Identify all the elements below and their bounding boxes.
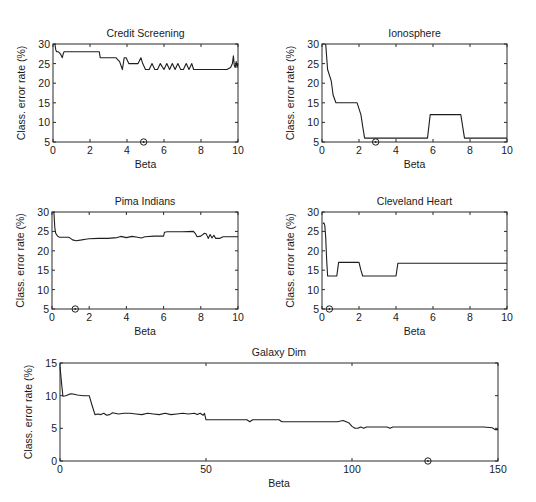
y-tick-label: 0 bbox=[51, 455, 57, 467]
y-tick-label: 30 bbox=[307, 38, 319, 50]
x-tick-label: 6 bbox=[161, 311, 167, 323]
y-tick-label: 15 bbox=[45, 357, 57, 369]
chart-pima-indians: Pima Indians Beta Class. error rate (%) … bbox=[14, 195, 244, 337]
axis-ticks: 050100150051015 bbox=[45, 357, 507, 475]
x-tick-label: 10 bbox=[232, 311, 244, 323]
y-tick-label: 5 bbox=[51, 422, 57, 434]
plot-area bbox=[322, 212, 507, 309]
plot-area bbox=[53, 44, 238, 142]
chart-credit-screening: Credit Screening Beta Class. error rate … bbox=[15, 27, 244, 170]
x-tick-label: 2 bbox=[356, 311, 362, 323]
x-tick-label: 0 bbox=[319, 311, 325, 323]
plot-area bbox=[52, 212, 238, 309]
x-tick-label: 8 bbox=[467, 144, 473, 156]
x-axis-label: Beta bbox=[404, 325, 426, 337]
error-rate-line bbox=[54, 212, 238, 241]
y-tick-label: 20 bbox=[307, 77, 319, 89]
plot-area bbox=[322, 44, 507, 142]
error-rate-line bbox=[60, 366, 498, 429]
y-tick-label: 15 bbox=[307, 264, 319, 276]
y-tick-label: 30 bbox=[307, 206, 319, 218]
x-tick-label: 8 bbox=[198, 144, 204, 156]
chart-ionosphere: Ionosphere Beta Class. error rate (%) 02… bbox=[284, 27, 513, 170]
x-tick-label: 8 bbox=[198, 311, 204, 323]
y-axis-label: Class. error rate (%) bbox=[22, 365, 34, 460]
y-tick-label: 10 bbox=[307, 116, 319, 128]
x-tick-label: 8 bbox=[467, 311, 473, 323]
y-tick-label: 5 bbox=[43, 303, 49, 315]
y-tick-label: 5 bbox=[313, 136, 319, 148]
x-tick-label: 4 bbox=[393, 311, 399, 323]
x-axis-label: Beta bbox=[268, 477, 290, 489]
x-tick-label: 4 bbox=[123, 311, 129, 323]
y-tick-label: 20 bbox=[307, 245, 319, 257]
x-tick-label: 6 bbox=[430, 311, 436, 323]
error-rate-line bbox=[326, 44, 507, 138]
chart-title: Credit Screening bbox=[106, 27, 184, 39]
y-tick-label: 20 bbox=[38, 77, 50, 89]
x-tick-label: 100 bbox=[343, 463, 361, 475]
y-tick-label: 25 bbox=[307, 58, 319, 70]
chart-cleveland-heart: Cleveland Heart Beta Class. error rate (… bbox=[284, 195, 513, 337]
y-tick-label: 10 bbox=[307, 284, 319, 296]
y-tick-label: 15 bbox=[38, 97, 50, 109]
x-tick-label: 2 bbox=[86, 311, 92, 323]
chart-title: Cleveland Heart bbox=[377, 195, 452, 207]
y-tick-label: 25 bbox=[38, 58, 50, 70]
chart-title: Ionosphere bbox=[388, 27, 441, 39]
axis-ticks: 024681051015202530 bbox=[38, 38, 244, 156]
error-rate-line bbox=[323, 223, 507, 276]
y-tick-label: 25 bbox=[37, 225, 49, 237]
chart-galaxy-dim: Galaxy Dim Beta Class. error rate (%) 05… bbox=[22, 346, 507, 489]
x-axis-label: Beta bbox=[404, 158, 426, 170]
y-tick-label: 10 bbox=[37, 284, 49, 296]
x-tick-label: 150 bbox=[489, 463, 507, 475]
x-axis-label: Beta bbox=[134, 325, 156, 337]
y-axis-label: Class. error rate (%) bbox=[14, 213, 26, 308]
error-rate-line bbox=[55, 44, 238, 70]
x-tick-label: 10 bbox=[232, 144, 244, 156]
y-tick-label: 20 bbox=[37, 245, 49, 257]
x-tick-label: 50 bbox=[200, 463, 212, 475]
x-tick-label: 0 bbox=[319, 144, 325, 156]
x-tick-label: 4 bbox=[393, 144, 399, 156]
chart-title: Pima Indians bbox=[115, 195, 176, 207]
x-tick-label: 2 bbox=[87, 144, 93, 156]
y-axis-label: Class. error rate (%) bbox=[284, 213, 296, 308]
chart-title: Galaxy Dim bbox=[252, 346, 307, 358]
y-tick-label: 30 bbox=[37, 206, 49, 218]
y-axis-label: Class. error rate (%) bbox=[15, 46, 27, 141]
y-tick-label: 30 bbox=[38, 38, 50, 50]
x-tick-label: 2 bbox=[356, 144, 362, 156]
y-tick-label: 10 bbox=[45, 390, 57, 402]
y-tick-label: 25 bbox=[307, 225, 319, 237]
y-tick-label: 5 bbox=[313, 303, 319, 315]
x-tick-label: 0 bbox=[50, 144, 56, 156]
x-tick-label: 0 bbox=[57, 463, 63, 475]
x-tick-label: 10 bbox=[501, 311, 513, 323]
x-tick-label: 6 bbox=[430, 144, 436, 156]
x-tick-label: 0 bbox=[49, 311, 55, 323]
x-tick-label: 6 bbox=[161, 144, 167, 156]
y-axis-label: Class. error rate (%) bbox=[284, 46, 296, 141]
x-tick-label: 10 bbox=[501, 144, 513, 156]
figure-canvas: Credit Screening Beta Class. error rate … bbox=[0, 0, 536, 502]
axis-ticks: 024681051015202530 bbox=[37, 206, 244, 323]
x-axis-label: Beta bbox=[135, 158, 157, 170]
y-tick-label: 5 bbox=[44, 136, 50, 148]
y-tick-label: 15 bbox=[307, 97, 319, 109]
y-tick-label: 10 bbox=[38, 116, 50, 128]
x-tick-label: 4 bbox=[124, 144, 130, 156]
y-tick-label: 15 bbox=[37, 264, 49, 276]
plot-area bbox=[60, 363, 498, 461]
